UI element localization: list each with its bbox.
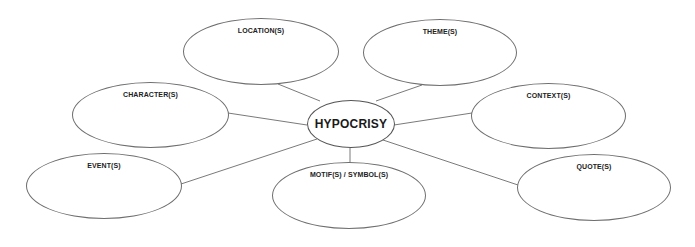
- node-label-character: CHARACTER(S): [73, 91, 228, 98]
- node-theme: THEME(S): [363, 19, 517, 86]
- node-quote: QUOTE(S): [517, 154, 671, 221]
- node-label-theme: THEME(S): [364, 28, 516, 35]
- connector-theme: [376, 85, 422, 101]
- node-character: CHARACTER(S): [72, 82, 229, 148]
- node-motif-symbol: MOTIF(S) / SYMBOL(S): [272, 162, 426, 229]
- node-label-quote: QUOTE(S): [518, 163, 670, 170]
- central-topic-label: HYPOCRISY: [315, 117, 387, 131]
- connector-location: [278, 84, 320, 101]
- connector-context: [394, 113, 472, 125]
- node-context: CONTEXT(S): [471, 83, 626, 149]
- node-location: LOCATION(S): [183, 18, 339, 85]
- connector-character: [228, 113, 307, 125]
- node-label-motif-symbol: MOTIF(S) / SYMBOL(S): [273, 171, 425, 178]
- node-label-context: CONTEXT(S): [472, 92, 625, 99]
- node-event: EVENT(S): [26, 153, 182, 219]
- node-label-event: EVENT(S): [27, 162, 181, 169]
- central-topic-node: HYPOCRISY: [307, 100, 395, 148]
- node-label-location: LOCATION(S): [184, 27, 338, 34]
